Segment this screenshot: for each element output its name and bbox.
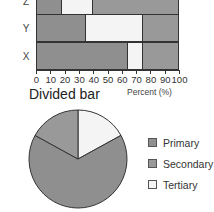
x-tick-label: 30 [74, 74, 85, 85]
legend-item-secondary: Secondary [148, 158, 213, 169]
x-tick-label: 80 [146, 74, 157, 85]
pie-slices [29, 110, 127, 208]
x-tick-label: 40 [88, 74, 99, 85]
category-label-y: Y [21, 23, 31, 34]
bar-segment-primary [36, 15, 86, 41]
pie-chart [27, 108, 129, 210]
bar-left-border [36, 0, 37, 71]
legend-swatch-tertiary [148, 180, 157, 189]
category-label-z: Z [21, 0, 31, 7]
x-tick-label: 60 [117, 74, 128, 85]
x-tick-label: 70 [131, 74, 142, 85]
x-tick-label: 90 [160, 74, 171, 85]
x-tick-label: 100 [172, 74, 188, 85]
x-tick-label: 10 [46, 74, 57, 85]
legend-label: Secondary [163, 158, 213, 170]
category-label-x: X [21, 51, 31, 62]
bar-segment-tertiary [128, 43, 144, 69]
legend-item-primary: Primary [148, 137, 213, 148]
bar-segment-primary [36, 43, 128, 69]
legend-swatch-secondary [148, 159, 157, 168]
bar-row-y [36, 14, 179, 42]
bar-right-border [178, 0, 179, 71]
bar-segment-secondary [143, 15, 179, 41]
bar-segment-tertiary [86, 15, 143, 41]
bar-row-x [36, 42, 179, 70]
legend-label: Primary [163, 137, 199, 149]
bar-segment-secondary [143, 43, 179, 69]
legend-swatch-primary [148, 138, 157, 147]
legend: Primary Secondary Tertiary [148, 137, 213, 200]
bar-segment-tertiary [62, 0, 93, 14]
bar-row-z [36, 0, 179, 15]
legend-item-tertiary: Tertiary [148, 179, 213, 190]
x-tick-label: 0 [34, 74, 39, 85]
x-tick-label: 20 [60, 74, 71, 85]
chart-title: Divided bar [29, 86, 100, 102]
x-tick-label: 50 [103, 74, 114, 85]
bar-plot-area [36, 0, 179, 70]
bar-segment-secondary [93, 0, 179, 14]
x-axis-label: Percent (%) [127, 87, 172, 97]
bar-segment-primary [36, 0, 62, 14]
legend-label: Tertiary [163, 179, 197, 191]
